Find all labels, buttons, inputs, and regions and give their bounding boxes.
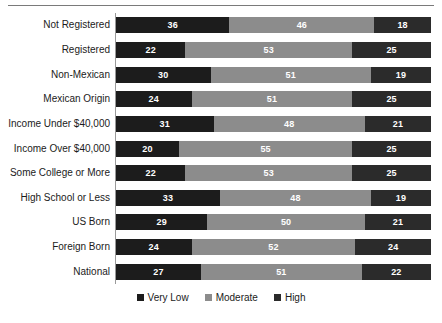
bar-segment-very-low: 29 [116,214,207,230]
bar-segment-high: 25 [352,91,431,107]
stacked-bar: 314821 [116,116,431,132]
category-label: Mexican Origin [2,91,110,107]
bar-segment-high: 25 [352,141,431,157]
stacked-bar: 295021 [116,214,431,230]
category-axis-labels: Not RegisteredRegisteredNon-MexicanMexic… [0,13,110,284]
bar-segment-very-low: 24 [116,91,192,107]
bar-segment-high: 19 [371,190,431,206]
plot-area: 3646182253253051192451253148212055252253… [116,13,431,284]
stacked-bar: 364618 [116,17,431,33]
category-label: Income Under $40,000 [2,116,110,132]
bar-row: 364618 [116,17,431,33]
category-label: National [2,264,110,280]
bar-segment-high: 21 [365,116,431,132]
stacked-bar-chart: Not RegisteredRegisteredNon-MexicanMexic… [0,0,442,323]
legend-label: Very Low [148,292,189,303]
category-label: Not Registered [2,17,110,33]
bar-segment-high: 25 [352,165,431,181]
stacked-bar: 225325 [116,42,431,58]
bar-segment-very-low: 30 [116,67,211,83]
bar-segment-moderate: 51 [211,67,372,83]
stacked-bar: 275122 [116,264,431,280]
bar-segment-moderate: 53 [185,165,352,181]
category-label: Some College or More [2,165,110,181]
bar-row: 245125 [116,91,431,107]
legend-label: Moderate [216,292,258,303]
bar-segment-moderate: 50 [207,214,365,230]
top-rule-divider [8,5,434,6]
stacked-bar: 334819 [116,190,431,206]
stacked-bar: 245125 [116,91,431,107]
bar-segment-high: 24 [355,239,431,255]
bar-segment-very-low: 22 [116,165,185,181]
bar-segment-high: 18 [374,17,431,33]
bar-row: 225325 [116,42,431,58]
bar-row: 275122 [116,264,431,280]
bar-segment-moderate: 52 [192,239,356,255]
category-label: Income Over $40,000 [2,141,110,157]
legend-swatch-icon [137,294,144,301]
category-label: US Born [2,214,110,230]
legend-item[interactable]: Very Low [137,292,189,303]
bar-segment-very-low: 22 [116,42,185,58]
category-label: Foreign Born [2,239,110,255]
bar-segment-very-low: 31 [116,116,214,132]
legend-label: High [285,292,306,303]
bar-row: 205525 [116,141,431,157]
bar-segment-very-low: 24 [116,239,192,255]
legend-item[interactable]: Moderate [205,292,258,303]
bar-row: 225325 [116,165,431,181]
legend-swatch-icon [205,294,212,301]
bar-row: 305119 [116,67,431,83]
bar-segment-high: 19 [371,67,431,83]
category-label: High School or Less [2,190,110,206]
bar-segment-high: 22 [362,264,431,280]
stacked-bar: 225325 [116,165,431,181]
bar-segment-high: 25 [352,42,431,58]
bar-segment-moderate: 51 [192,91,353,107]
bar-segment-moderate: 51 [201,264,362,280]
category-label: Registered [2,42,110,58]
legend-swatch-icon [274,294,281,301]
bar-row: 334819 [116,190,431,206]
bar-row: 245224 [116,239,431,255]
stacked-bar: 205525 [116,141,431,157]
stacked-bar: 305119 [116,67,431,83]
bar-segment-high: 21 [365,214,431,230]
bar-row: 295021 [116,214,431,230]
bar-row: 314821 [116,116,431,132]
bar-segment-moderate: 53 [185,42,352,58]
bar-segment-moderate: 55 [179,141,352,157]
bar-segment-moderate: 48 [220,190,371,206]
bar-segment-very-low: 33 [116,190,220,206]
legend-item[interactable]: High [274,292,306,303]
chart-legend: Very LowModerateHigh [0,292,442,303]
stacked-bar: 245224 [116,239,431,255]
bar-segment-very-low: 20 [116,141,179,157]
bar-segment-very-low: 27 [116,264,201,280]
bar-segment-moderate: 48 [214,116,365,132]
bar-segment-very-low: 36 [116,17,229,33]
category-label: Non-Mexican [2,67,110,83]
bar-segment-moderate: 46 [229,17,374,33]
